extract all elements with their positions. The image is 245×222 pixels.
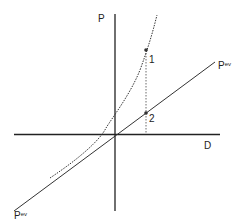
- point-1-label: 1: [149, 54, 155, 65]
- diagram-canvas: P D 1 2 Pev Pev: [0, 0, 245, 222]
- dotted-curve: [50, 15, 157, 178]
- point-2: [144, 111, 148, 115]
- point-2-label: 2: [149, 113, 155, 124]
- x-axis-label: D: [204, 140, 211, 151]
- point-1: [144, 48, 148, 52]
- pev-label-upper: Pev: [218, 60, 231, 71]
- y-axis-label: P: [98, 13, 105, 24]
- pev-label-lower: Pev: [14, 210, 27, 221]
